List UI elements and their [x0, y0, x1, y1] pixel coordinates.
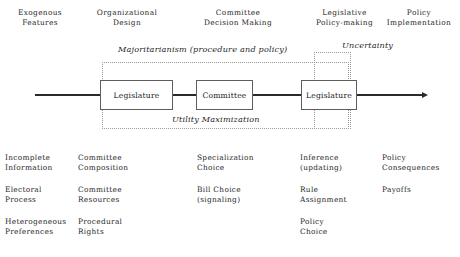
stage-header-committee-decision: Committee Decision Making	[178, 8, 298, 28]
attribute-item: Policy Choice	[300, 217, 347, 236]
attribute-item: Electoral Process	[5, 185, 66, 204]
node-label: Legislature	[306, 91, 352, 100]
organizational-design-attrs: Committee CompositionCommittee Resources…	[78, 153, 128, 237]
attribute-item: Incomplete Information	[5, 153, 66, 172]
attribute-item: Procedural Rights	[78, 217, 128, 236]
node-label: Legislature	[114, 91, 160, 100]
attribute-item: Committee Resources	[78, 185, 128, 204]
exogenous-features-attrs: Incomplete InformationElectoral ProcessH…	[5, 153, 66, 237]
legislative-policy-attrs: Inference (updating)Rule AssignmentPolic…	[300, 153, 347, 237]
annotation-majoritarianism: Majoritarianism (procedure and policy)	[118, 44, 287, 54]
stage-header-policy-implementation: Policy Implementation	[378, 8, 460, 28]
attribute-item: Inference (updating)	[300, 153, 347, 172]
attribute-item: Policy Consequences	[382, 153, 440, 172]
attribute-item: Heterogeneous Preferences	[5, 217, 66, 236]
diagram-canvas: Exogenous FeaturesOrganizational DesignC…	[0, 0, 460, 257]
attribute-item: Payoffs	[382, 185, 440, 195]
node-label: Committee	[202, 91, 246, 100]
attribute-item: Bill Choice (signaling)	[197, 185, 254, 204]
node-legislature-1[interactable]: Legislature	[100, 80, 173, 110]
annotation-uncertainty: Uncertainty	[342, 40, 393, 50]
policy-implementation-attrs: Policy ConsequencesPayoffs	[382, 153, 440, 195]
attribute-item: Committee Composition	[78, 153, 128, 172]
attribute-item: Specialization Choice	[197, 153, 254, 172]
stage-header-organizational-design: Organizational Design	[72, 8, 182, 28]
node-legislature-2[interactable]: Legislature	[301, 80, 357, 110]
annotation-utility-maximization: Utility Maximization	[172, 114, 260, 124]
process-flow-arrowhead	[422, 92, 428, 98]
committee-decision-attrs: Specialization ChoiceBill Choice (signal…	[197, 153, 254, 204]
attribute-item: Rule Assignment	[300, 185, 347, 204]
stage-header-exogenous-features: Exogenous Features	[0, 8, 80, 28]
node-committee[interactable]: Committee	[196, 80, 253, 110]
